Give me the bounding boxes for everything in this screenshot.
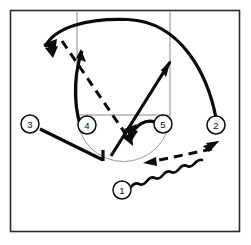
player-marker-1[interactable]: 1 (113, 181, 131, 199)
player-marker-5[interactable]: 5 (154, 115, 172, 133)
player-label-3: 3 (27, 119, 32, 130)
player-label-1: 1 (119, 185, 124, 196)
player-label-4: 4 (84, 120, 89, 131)
player-label-2: 2 (213, 120, 218, 131)
basketball-play-diagram: 3 4 5 2 1 (0, 0, 251, 245)
player-marker-3[interactable]: 3 (21, 115, 39, 133)
player-label-5: 5 (160, 119, 165, 130)
player-marker-2[interactable]: 2 (207, 116, 225, 134)
player-marker-4[interactable]: 4 (78, 116, 96, 134)
play-diagram-root: 3 4 5 2 1 (0, 0, 251, 245)
